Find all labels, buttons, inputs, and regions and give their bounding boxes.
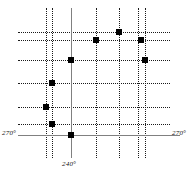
horizontal-axis xyxy=(18,135,180,136)
data-point-marker xyxy=(68,132,74,138)
data-point-marker xyxy=(43,104,49,110)
gridline-horizontal xyxy=(18,124,170,125)
data-point-marker xyxy=(93,37,99,43)
data-point-marker xyxy=(116,29,122,35)
gridline-horizontal xyxy=(18,32,170,33)
axis-label-left: 270° xyxy=(2,129,16,137)
data-point-marker xyxy=(138,37,144,43)
axis-label-bottom: 240° xyxy=(62,160,76,168)
scatter-plot-figure: 270° 270° 240° xyxy=(0,0,193,175)
gridline-horizontal xyxy=(18,83,170,84)
axis-label-right: 270° xyxy=(172,129,186,137)
data-point-marker xyxy=(49,121,55,127)
data-point-marker xyxy=(142,57,148,63)
gridline-horizontal xyxy=(18,107,170,108)
data-point-marker xyxy=(68,57,74,63)
data-point-marker xyxy=(49,80,55,86)
